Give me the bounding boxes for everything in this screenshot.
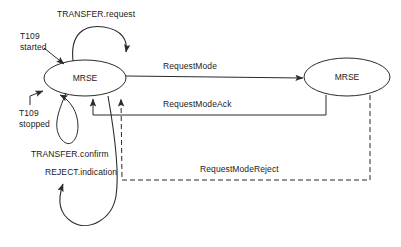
transition-label-t109-stopped-line1: T109: [19, 108, 50, 119]
transition-label-transfer-confirm: TRANSFER.confirm: [31, 149, 109, 160]
transition-label-reject-indication: REJECT.indication: [45, 167, 117, 178]
transition-label-t109-started-line1: T109: [20, 31, 47, 42]
transition-line-transfer-confirm: [57, 93, 78, 144]
transition-label-request-mode-ack: RequestModeAck: [163, 99, 232, 110]
transition-line-t109-started: [44, 48, 64, 64]
transition-label-transfer-request: TRANSFER.request: [57, 9, 135, 20]
transition-line-transfer-request: [73, 26, 127, 61]
transition-label-t109-started: T109 started: [20, 31, 47, 53]
transition-label-request-mode-reject: RequestModeReject: [200, 164, 279, 175]
transition-line-t109-stopped: [30, 91, 43, 105]
transition-label-t109-started-line2: started: [20, 42, 47, 53]
state-label-left: MRSE: [63, 73, 107, 83]
state-diagram: MRSE MRSE TRANSFER.request T109 started …: [0, 0, 401, 247]
transition-label-request-mode: RequestMode: [163, 61, 217, 72]
transition-label-t109-stopped-line2: stopped: [19, 119, 50, 130]
transition-label-t109-stopped: T109 stopped: [19, 108, 50, 130]
diagram-canvas: [0, 0, 401, 247]
transition-line-request-mode: [126, 76, 303, 78]
state-label-right: MRSE: [325, 72, 369, 82]
